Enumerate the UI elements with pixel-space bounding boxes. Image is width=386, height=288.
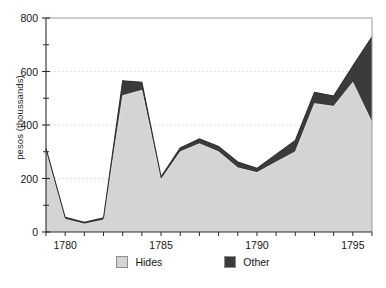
y-tick-label: 200 (20, 173, 38, 185)
y-tick-label: 0 (32, 226, 38, 238)
y-tick-label: 600 (20, 66, 38, 78)
x-tick-label: 1785 (149, 239, 172, 251)
legend-item-other[interactable]: Other (224, 256, 269, 268)
x-tick-label: 1790 (245, 239, 268, 251)
legend-swatch-other (224, 256, 236, 268)
legend-label-other: Other (243, 256, 269, 268)
chart-container: pesos (thoussands) 0200400600800 1780178… (0, 0, 386, 288)
legend-label-hides: Hides (135, 256, 162, 268)
y-tick-label: 400 (20, 119, 38, 131)
legend-swatch-hides (116, 256, 128, 268)
chart-legend: Hides Other (0, 256, 386, 268)
y-axis-tick-labels: 0200400600800 (0, 0, 38, 288)
x-tick-label: 1795 (341, 239, 364, 251)
legend-item-hides[interactable]: Hides (116, 256, 162, 268)
y-tick-label: 800 (20, 12, 38, 24)
x-tick-label: 1780 (53, 239, 76, 251)
